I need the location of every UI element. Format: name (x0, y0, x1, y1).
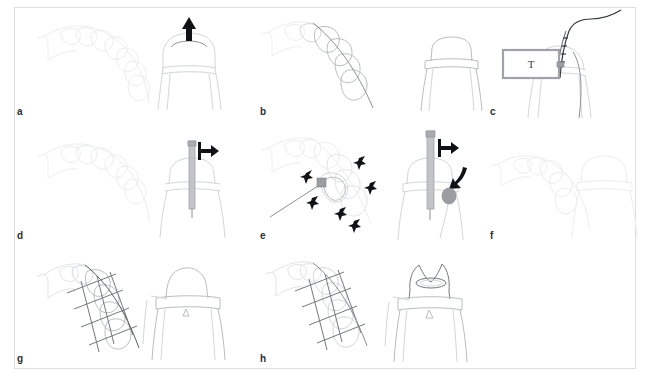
t-box-label: T (528, 58, 535, 70)
panel-b: b (251, 8, 487, 120)
panel-a: a (15, 8, 251, 120)
panel-e: e (251, 126, 487, 246)
occlusal-arch-outline (265, 262, 367, 350)
buccal-tooth-outline (158, 33, 221, 110)
panel-label-g: g (17, 353, 23, 364)
drill-rod (426, 131, 435, 220)
panel-c: T c (487, 8, 637, 120)
panel-label-f: f (490, 230, 493, 241)
panel-f-drawing (487, 126, 637, 246)
panel-label-e: e (260, 230, 266, 241)
panel-h-drawing (251, 252, 487, 370)
panel-e-drawing (251, 126, 487, 246)
buccal-crown (143, 268, 225, 360)
panel-h: h (251, 252, 487, 370)
t-box: T (503, 50, 564, 78)
drill-rod (188, 141, 196, 218)
panel-c-drawing: T (487, 8, 637, 120)
panel-g: g (15, 252, 251, 370)
probe-instrument (270, 178, 326, 217)
figure-frame: a (14, 7, 636, 369)
panel-d-drawing (15, 126, 251, 246)
panel-b-drawing (251, 8, 487, 120)
occlusal-arch-outline (261, 138, 371, 224)
panel-label-a: a (17, 106, 23, 117)
panel-label-h: h (260, 353, 266, 364)
panel-label-d: d (17, 230, 23, 241)
panel-d: d (15, 126, 251, 246)
right-arrow (438, 139, 459, 157)
buccal-prepared-tooth (572, 156, 637, 238)
panel-g-drawing (15, 252, 251, 370)
right-arrow (198, 142, 219, 160)
occlusal-arch-outline (261, 22, 373, 108)
up-arrow (182, 17, 196, 41)
figure-container: a (0, 0, 650, 377)
panel-a-drawing (15, 8, 251, 120)
panel-label-c: c (490, 106, 496, 117)
panel-label-b: b (260, 106, 266, 117)
occlusal-arch-outline (37, 26, 150, 103)
curved-arrow (440, 167, 467, 238)
occlusal-arch-outline (37, 144, 149, 221)
buccal-crown-with-opening (385, 264, 467, 362)
occlusal-arch-outline (37, 264, 139, 352)
panel-f: f (487, 126, 637, 246)
buccal-prepared-tooth (421, 37, 482, 111)
probe-wire (557, 10, 621, 78)
